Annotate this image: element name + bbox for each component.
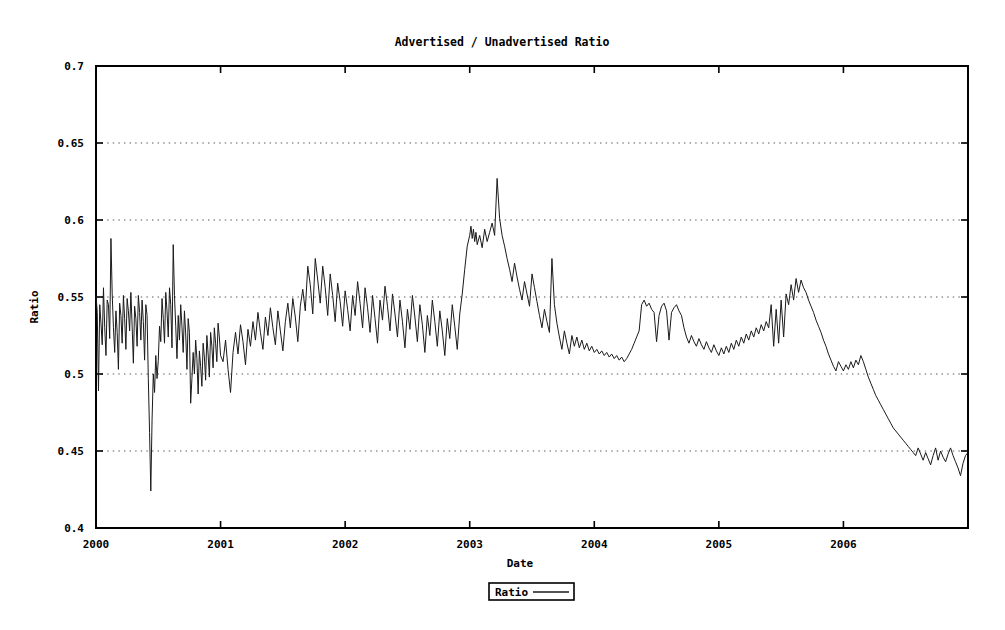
x-axis-label: Date bbox=[507, 557, 534, 570]
x-tick-label: 2005 bbox=[706, 538, 733, 551]
chart-canvas: Advertised / Unadvertised Ratio 0.40.450… bbox=[0, 0, 1005, 630]
x-tick-label: 2002 bbox=[332, 538, 359, 551]
chart-figure: Advertised / Unadvertised Ratio 0.40.450… bbox=[0, 0, 1005, 630]
x-tick-label: 2000 bbox=[83, 538, 110, 551]
y-tick-label: 0.45 bbox=[58, 445, 85, 458]
x-tick-label: 2003 bbox=[456, 538, 483, 551]
background bbox=[0, 0, 1005, 630]
y-tick-label: 0.6 bbox=[64, 214, 84, 227]
x-tick-label: 2001 bbox=[207, 538, 234, 551]
chart-title: Advertised / Unadvertised Ratio bbox=[395, 35, 610, 49]
x-tick-label: 2006 bbox=[830, 538, 857, 551]
y-tick-label: 0.7 bbox=[64, 60, 84, 73]
y-tick-label: 0.55 bbox=[58, 291, 85, 304]
x-tick-label: 2004 bbox=[581, 538, 608, 551]
y-tick-label: 0.4 bbox=[64, 522, 84, 535]
y-axis-label: Ratio bbox=[28, 290, 41, 323]
y-tick-label: 0.5 bbox=[64, 368, 84, 381]
legend-label-ratio: Ratio bbox=[495, 586, 528, 599]
y-tick-label: 0.65 bbox=[58, 137, 85, 150]
